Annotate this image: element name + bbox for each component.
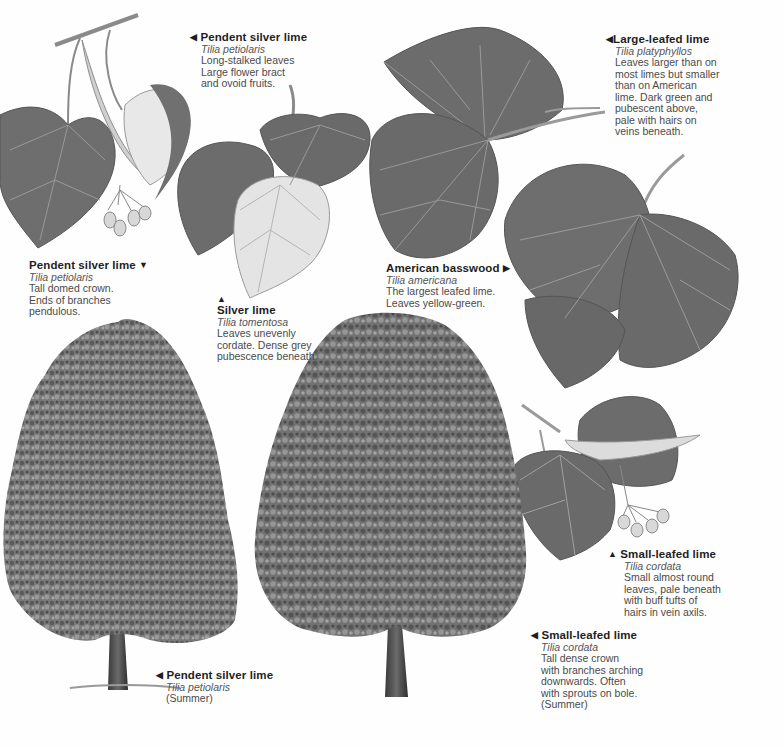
description-line: pendulous. <box>29 306 148 318</box>
arrow-up-icon: ▲ <box>608 549 617 561</box>
common-name: Small-leafed lime <box>541 629 637 641</box>
common-name: Pendent silver lime <box>166 669 273 681</box>
description-line: Leaves unevenly <box>217 328 317 340</box>
caption-pendent-silver-lime-tree: ◀ Pendent silver lime Tilia petiolaris (… <box>156 670 273 705</box>
common-name: Silver lime <box>217 305 317 317</box>
common-name: Large-leafed lime <box>613 33 709 45</box>
arrow-left-icon: ◀ <box>156 670 163 682</box>
large-leafed-lime-leaves-illustration <box>504 155 738 388</box>
pendent-silver-lime-leaves-illustration <box>0 15 191 248</box>
caption-small-leafed-lime-tree: ◀ Small-leafed lime Tilia cordata Tall d… <box>531 630 643 711</box>
description-line: with buff tufts of <box>624 595 721 607</box>
caption-american-basswood: American basswood ▶ Tilia americana The … <box>386 263 510 309</box>
description-line: pubescence beneath. <box>217 351 317 363</box>
description-line: Long-stalked leaves <box>201 55 307 67</box>
description-line: pubescent above, <box>615 103 719 115</box>
small-leafed-lime-leaves-illustration <box>512 397 700 560</box>
description-line: (Summer) <box>541 699 643 711</box>
silver-lime-leaves-illustration <box>178 85 370 298</box>
description-line: Small almost round <box>624 572 721 584</box>
description-line: Tall domed crown. <box>29 283 148 295</box>
description-line: downwards. Often <box>541 676 643 688</box>
caption-pendent-silver-lime-crown: Pendent silver lime ▼ Tilia petiolaris T… <box>29 260 148 318</box>
arrow-left-icon: ◀ <box>190 32 197 44</box>
arrow-down-icon: ▼ <box>139 260 148 272</box>
description-line: Leaves yellow-green. <box>386 298 510 310</box>
common-name: Pendent silver lime <box>29 259 136 271</box>
description-line: veins beneath. <box>615 126 719 138</box>
caption-large-leafed-lime: ◀Large-leafed lime Tilia platyphyllos Le… <box>606 34 719 138</box>
common-name: Pendent silver lime <box>200 31 307 43</box>
common-name: Small-leafed lime <box>620 548 716 560</box>
caption-pendent-silver-lime-leaf: ◀ Pendent silver lime Tilia petiolaris L… <box>190 32 307 90</box>
arrow-left-icon: ◀ <box>531 630 538 642</box>
caption-silver-lime: ▲ Silver lime Tilia tomentosa Leaves une… <box>217 295 317 363</box>
description-line: and ovoid fruits. <box>201 78 307 90</box>
arrow-right-icon: ▶ <box>503 263 510 275</box>
description-line: Tall dense crown <box>541 653 643 665</box>
description-line: (Summer) <box>166 693 273 705</box>
small-leafed-lime-tree-illustration <box>255 313 527 697</box>
common-name: American basswood <box>386 262 500 274</box>
arrow-up-icon: ▲ <box>217 295 317 304</box>
pendent-silver-lime-tree-illustration <box>3 319 237 690</box>
description-line: hairs in vein axils. <box>624 607 721 619</box>
field-guide-page: ◀ Pendent silver lime Tilia petiolaris L… <box>0 0 783 748</box>
description-line: The largest leafed lime. <box>386 286 510 298</box>
caption-small-leafed-lime-leaf: ▲ Small-leafed lime Tilia cordata Small … <box>608 549 721 618</box>
description-line: than on American <box>615 80 719 92</box>
description-line: Leaves larger than on <box>615 57 719 69</box>
